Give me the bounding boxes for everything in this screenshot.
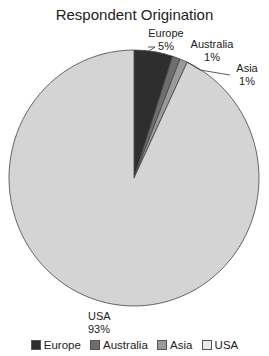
legend-label: USA — [215, 339, 239, 351]
legend-swatch — [31, 340, 41, 350]
label-usa-value: 93% — [88, 323, 118, 336]
label-asia-name: Asia — [232, 62, 262, 75]
legend-swatch — [157, 340, 167, 350]
label-australia-value: 1% — [186, 51, 238, 64]
chart-legend: Europe Australia Asia USA — [0, 339, 269, 351]
legend-label: Asia — [170, 339, 192, 351]
slice-usa — [9, 50, 259, 306]
label-australia-name: Australia — [186, 38, 238, 51]
legend-label: Australia — [103, 339, 148, 351]
chart-title: Respondent Origination — [0, 6, 269, 23]
legend-swatch — [202, 340, 212, 350]
legend-swatch — [90, 340, 100, 350]
label-asia-value: 1% — [232, 75, 262, 88]
legend-item-europe: Europe — [31, 339, 81, 351]
label-usa: USA 93% — [88, 310, 118, 336]
legend-item-asia: Asia — [157, 339, 192, 351]
legend-label: Europe — [44, 339, 81, 351]
legend-item-australia: Australia — [90, 339, 148, 351]
label-usa-name: USA — [88, 310, 118, 323]
label-europe-value: 5% — [146, 40, 186, 53]
label-australia: Australia 1% — [186, 38, 238, 64]
label-europe: Europe 5% — [146, 27, 186, 53]
legend-item-usa: USA — [202, 339, 239, 351]
label-europe-name: Europe — [146, 27, 186, 40]
label-asia: Asia 1% — [232, 62, 262, 88]
